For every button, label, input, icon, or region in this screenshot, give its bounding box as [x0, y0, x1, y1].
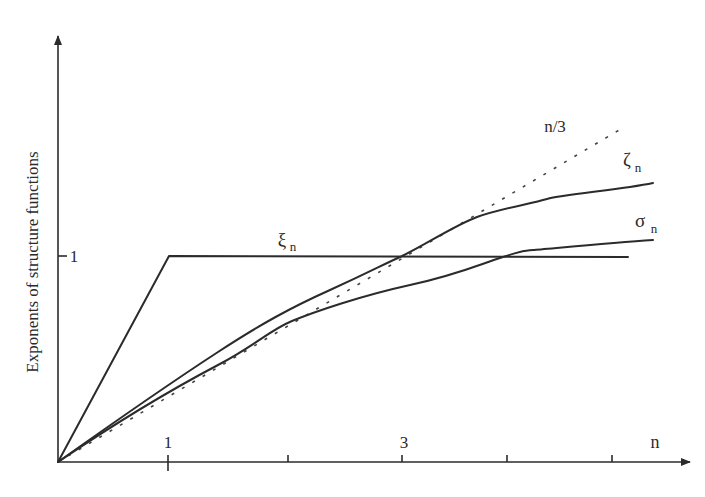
label-zeta-n: ζ n [623, 149, 642, 175]
svg-text:ξ: ξ [278, 229, 287, 250]
label-sigma-n: σ n [635, 210, 658, 236]
series-n-over-3 [58, 126, 626, 462]
svg-text:σ: σ [635, 210, 645, 231]
y-tick-label-1: 1 [70, 247, 79, 266]
label-n-over-3: n/3 [544, 117, 566, 136]
x-tick-label-3: 3 [400, 433, 409, 452]
svg-text:ζ: ζ [623, 149, 631, 170]
label-xi-n: ξ n [278, 229, 297, 254]
svg-text:n: n [290, 239, 297, 254]
series-sigma-n [58, 240, 653, 462]
svg-text:n: n [651, 221, 658, 236]
series-zeta-n [58, 183, 653, 462]
series-xi-n [58, 256, 628, 462]
y-axis-label: Exponents of structure functions [23, 151, 42, 372]
x-axis-label: n [651, 432, 660, 452]
x-tick-label-1: 1 [164, 433, 173, 452]
chart: 1 3 n 1 Exponents of structure functions… [0, 0, 705, 497]
svg-text:n: n [635, 160, 642, 175]
x-ticks [168, 455, 612, 471]
